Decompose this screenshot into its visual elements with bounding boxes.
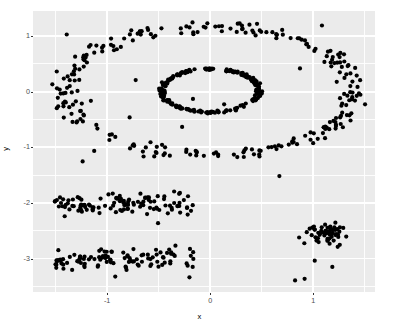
data-points-layer <box>33 11 375 292</box>
y-tick-mark <box>31 92 33 93</box>
y-tick-label: 0 <box>14 88 30 95</box>
x-tick-mark <box>210 293 211 295</box>
y-tick-mark <box>31 203 33 204</box>
x-axis-title: x <box>0 313 399 321</box>
y-axis-title: y <box>2 143 10 155</box>
y-tick-mark <box>31 259 33 260</box>
x-tick-mark <box>313 293 314 295</box>
x-tick-label: 0 <box>208 297 212 304</box>
plot-panel <box>33 11 375 292</box>
scatter-plot-figure: 10-1-2-3 -101 x y <box>0 0 399 327</box>
y-tick-label: -3 <box>14 255 30 262</box>
y-tick-mark <box>31 36 33 37</box>
x-tick-mark <box>107 293 108 295</box>
y-tick-label: -2 <box>14 199 30 206</box>
x-tick-label: 1 <box>311 297 315 304</box>
x-tick-label: -1 <box>104 297 110 304</box>
plot-title <box>33 0 375 4</box>
y-tick-mark <box>31 147 33 148</box>
y-tick-label: 1 <box>14 32 30 39</box>
y-tick-label: -1 <box>14 144 30 151</box>
